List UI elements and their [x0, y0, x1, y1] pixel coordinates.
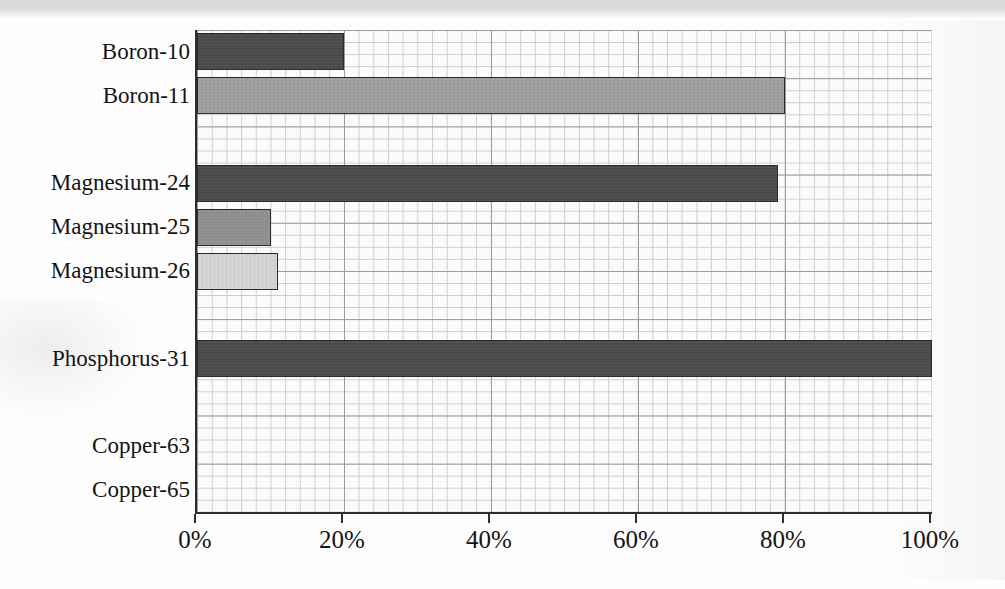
- bar-phosphorus-31: [197, 340, 932, 377]
- x-tick-label-20%: 20%: [292, 527, 392, 552]
- x-tick-label-80%: 80%: [733, 527, 833, 552]
- category-label-phosphorus-31: Phosphorus-31: [52, 347, 190, 370]
- x-tick-label-100%: 100%: [880, 527, 980, 552]
- bar-boron-10: [197, 33, 344, 70]
- category-label-copper-63: Copper-63: [92, 434, 190, 457]
- x-tick-0%: [194, 514, 196, 523]
- bar-texture: [198, 166, 777, 201]
- isotope-abundance-bar-chart: Boron-10Boron-11Magnesium-24Magnesium-25…: [0, 0, 1005, 589]
- x-tick-60%: [635, 514, 637, 523]
- bar-boron-11: [197, 77, 785, 114]
- category-label-magnesium-24: Magnesium-24: [51, 171, 190, 194]
- category-label-boron-11: Boron-11: [103, 84, 190, 107]
- category-label-magnesium-25: Magnesium-25: [51, 215, 190, 238]
- plot-area: [195, 30, 932, 514]
- bar-texture: [198, 341, 931, 376]
- bar-texture: [198, 78, 784, 113]
- bar-texture: [198, 210, 270, 245]
- x-tick-100%: [929, 514, 931, 523]
- x-tick-label-60%: 60%: [586, 527, 686, 552]
- x-tick-label-0%: 0%: [145, 527, 245, 552]
- x-tick-20%: [341, 514, 343, 523]
- bar-magnesium-24: [197, 165, 778, 202]
- bar-texture: [198, 254, 277, 289]
- bar-magnesium-26: [197, 253, 278, 290]
- bar-magnesium-25: [197, 209, 271, 246]
- category-label-magnesium-26: Magnesium-26: [51, 259, 190, 282]
- category-label-copper-65: Copper-65: [92, 478, 190, 501]
- x-tick-label-40%: 40%: [439, 527, 539, 552]
- category-label-boron-10: Boron-10: [102, 40, 190, 63]
- x-tick-80%: [782, 514, 784, 523]
- bar-texture: [198, 34, 343, 69]
- x-tick-40%: [488, 514, 490, 523]
